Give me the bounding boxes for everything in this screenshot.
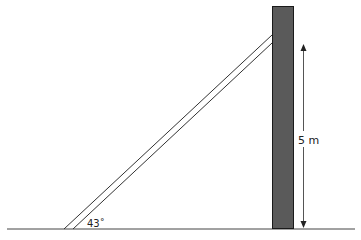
diagram-canvas: 5 m 43˚ xyxy=(0,0,361,240)
height-label: 5 m xyxy=(298,134,319,147)
wall xyxy=(273,7,294,229)
angle-label: 43˚ xyxy=(87,218,105,229)
ladder xyxy=(64,35,272,229)
